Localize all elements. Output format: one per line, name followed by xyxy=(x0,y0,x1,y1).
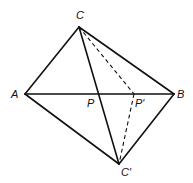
label-C-prime: C′ xyxy=(121,166,132,178)
label-B: B xyxy=(177,88,184,100)
label-P: P xyxy=(87,97,95,109)
edge-AC xyxy=(25,27,79,94)
label-C: C xyxy=(76,9,84,21)
edge-CB xyxy=(79,27,174,94)
edge-AC-prime xyxy=(25,94,119,164)
edge-C-prime-B xyxy=(119,94,174,164)
label-A: A xyxy=(10,88,18,100)
geometry-diagram: C A B P P′ C′ xyxy=(0,0,193,183)
label-P-prime: P′ xyxy=(135,97,145,109)
edge-CC-prime xyxy=(79,27,119,164)
